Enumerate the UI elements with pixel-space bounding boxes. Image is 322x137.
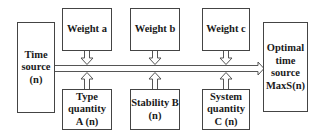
weight-down-arrows (81, 51, 232, 65)
weight-b-box: Weight b (130, 8, 180, 51)
factor-up-arrows (81, 73, 232, 90)
time-source-box: Time source (n) (17, 22, 55, 113)
weight-a-box: Weight a (62, 8, 112, 51)
stability-box: Stability B (n) (130, 89, 180, 130)
weight-c-box: Weight c (202, 8, 250, 51)
type-quantity-box: Type quantity A (n) (62, 89, 112, 130)
optimal-time-source-box: Optimal time source MaxS(n) (263, 22, 308, 112)
system-quantity-box: System quantity C (n) (202, 89, 250, 130)
